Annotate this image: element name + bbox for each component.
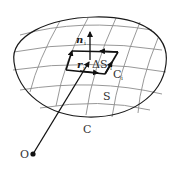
label-n-sub: i xyxy=(84,39,86,46)
label-c-i-sub: i xyxy=(121,74,123,81)
stokes-surface-diagram: n i r i ΔS i C i S C O xyxy=(0,0,177,172)
label-delta-s: ΔS xyxy=(92,58,107,71)
origin-point xyxy=(30,151,35,156)
label-r-sub: i xyxy=(83,64,85,71)
label-surface-s: S xyxy=(103,90,111,103)
label-boundary-c: C xyxy=(83,123,91,136)
label-delta-s-sub: i xyxy=(110,64,112,71)
label-n: n xyxy=(76,34,83,45)
label-origin-o: O xyxy=(20,148,29,161)
